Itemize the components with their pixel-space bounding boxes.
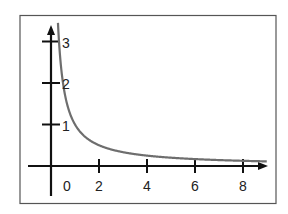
chart: 02468123 — [0, 0, 288, 214]
tick-labels: 02468123 — [62, 35, 247, 195]
x-tick-label: 0 — [63, 178, 71, 194]
axes — [28, 25, 268, 196]
x-tick-label: 6 — [191, 178, 199, 194]
x-tick-label: 8 — [239, 178, 247, 194]
y-tick-label: 3 — [62, 35, 70, 51]
y-tick-label: 1 — [62, 118, 70, 134]
y-axis-arrow-icon — [47, 25, 55, 35]
y-tick-label: 2 — [62, 76, 70, 92]
x-tick-label: 2 — [95, 178, 103, 194]
x-axis-arrow-icon — [258, 162, 268, 170]
curve-line — [58, 23, 267, 161]
x-tick-label: 4 — [143, 178, 151, 194]
